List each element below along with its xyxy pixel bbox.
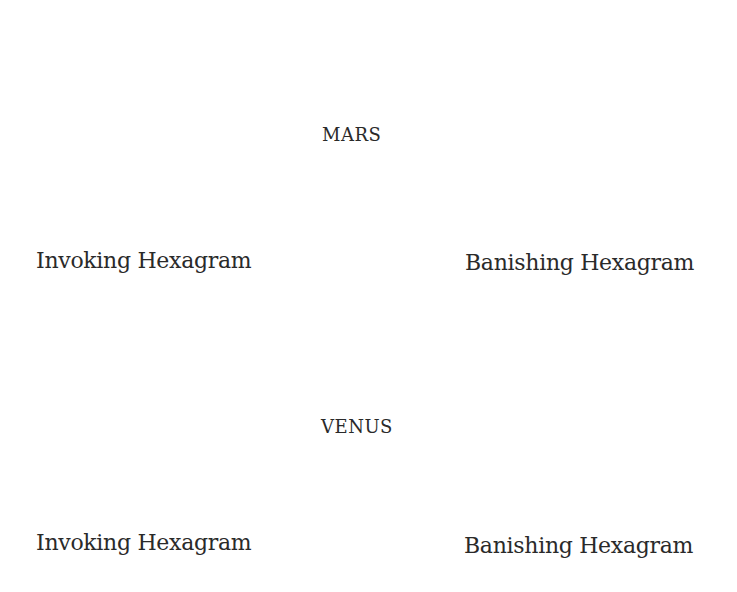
- planet-label-mars: MARS: [322, 124, 381, 145]
- mars-banishing-caption: Banishing Hexagram: [465, 250, 694, 275]
- planet-label-venus: VENUS: [321, 416, 393, 437]
- venus-banishing-caption: Banishing Hexagram: [464, 533, 693, 558]
- venus-invoking-caption: Invoking Hexagram: [36, 530, 251, 555]
- mars-invoking-caption: Invoking Hexagram: [36, 248, 251, 273]
- hexagram-diagram: [0, 0, 737, 592]
